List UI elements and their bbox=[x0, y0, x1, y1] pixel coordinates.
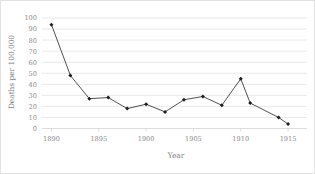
y-tick-label: 0 bbox=[33, 125, 37, 133]
y-tick-label: 60 bbox=[29, 59, 37, 67]
grid-lines bbox=[42, 18, 307, 117]
data-point-marker bbox=[144, 102, 148, 106]
x-axis-tick-labels: 189018951900190519101915 bbox=[43, 135, 296, 143]
data-point-marker bbox=[106, 96, 110, 100]
x-axis-tick-marks bbox=[51, 129, 288, 132]
data-point-marker bbox=[248, 101, 252, 105]
y-tick-label: 70 bbox=[29, 48, 37, 56]
y-tick-label: 40 bbox=[29, 81, 37, 89]
series-line bbox=[51, 25, 288, 124]
line-chart: 0102030405060708090100 18901895190019051… bbox=[1, 1, 315, 174]
x-tick-label: 1910 bbox=[232, 135, 249, 143]
data-point-marker bbox=[125, 107, 129, 111]
x-tick-label: 1890 bbox=[43, 135, 60, 143]
y-tick-label: 10 bbox=[29, 114, 37, 122]
series-markers bbox=[49, 23, 290, 126]
y-tick-label: 90 bbox=[29, 25, 37, 33]
x-axis-title: Year bbox=[167, 151, 185, 160]
y-tick-label: 20 bbox=[29, 103, 37, 111]
y-axis-title: Deaths per 100,000 bbox=[7, 35, 16, 109]
x-tick-label: 1895 bbox=[90, 135, 107, 143]
data-point-marker bbox=[49, 23, 53, 27]
chart-figure: 0102030405060708090100 18901895190019051… bbox=[0, 0, 315, 174]
x-tick-label: 1900 bbox=[138, 135, 155, 143]
x-tick-label: 1915 bbox=[280, 135, 297, 143]
y-axis-tick-labels: 0102030405060708090100 bbox=[24, 14, 37, 132]
y-tick-label: 80 bbox=[29, 37, 37, 45]
y-tick-label: 30 bbox=[29, 92, 37, 100]
x-tick-label: 1905 bbox=[185, 135, 202, 143]
y-tick-label: 100 bbox=[24, 14, 37, 22]
y-tick-label: 50 bbox=[29, 70, 37, 78]
